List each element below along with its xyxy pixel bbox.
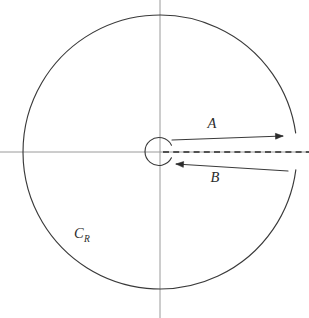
label-cr-base: C: [74, 225, 84, 241]
label-b: B: [211, 169, 220, 185]
label-a: A: [207, 115, 217, 131]
label-cr-subscript: R: [83, 234, 90, 244]
segment-a-arrowhead-icon: [275, 133, 283, 139]
segment-b-line: [176, 164, 288, 171]
figure-root: A B C R: [0, 0, 309, 318]
segment-a-line: [172, 136, 283, 140]
segment-b-arrowhead-icon: [176, 162, 184, 168]
contour-diagram-canvas: A B C R: [0, 0, 309, 318]
label-cr-group: C R: [74, 225, 90, 244]
